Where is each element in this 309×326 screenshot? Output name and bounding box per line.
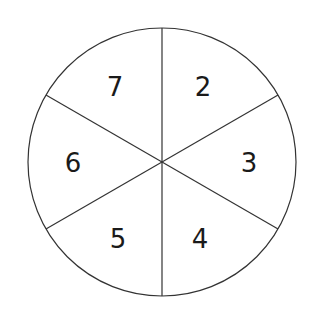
- section-label-4: 4: [192, 224, 209, 254]
- section-label-6: 6: [65, 148, 82, 178]
- section-label-2: 2: [195, 72, 212, 102]
- section-label-3: 3: [241, 148, 258, 178]
- section-label-7: 7: [107, 72, 124, 102]
- section-label-5: 5: [110, 224, 127, 254]
- spinner-diagram: 2 3 4 5 6 7: [0, 0, 309, 326]
